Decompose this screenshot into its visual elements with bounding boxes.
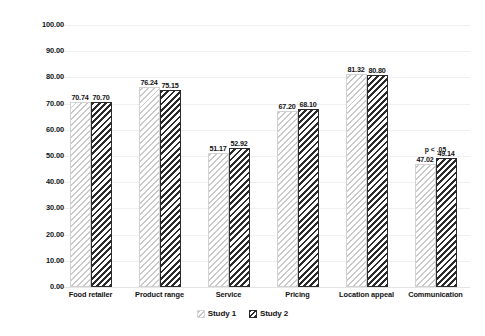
bar-study-1[interactable]: 70.74	[70, 102, 91, 287]
bar-pair: 76.2475.15	[125, 25, 194, 287]
bar-value-label: 52.92	[230, 140, 247, 148]
bar-study-2[interactable]: 49.14	[436, 158, 457, 287]
bar-study-2[interactable]: 68.10	[298, 109, 319, 287]
chart-legend: Study 1Study 2	[0, 309, 485, 318]
y-axis-tick-label: 80.00	[4, 73, 64, 81]
bar-value-label: 51.17	[209, 145, 226, 153]
dark-hatch-swatch	[249, 310, 257, 318]
bar-study-1[interactable]: 67.20	[277, 111, 298, 287]
y-axis-tick-label: 60.00	[4, 126, 64, 134]
bar-group: 67.2068.10	[263, 25, 332, 287]
legend-item-study-1[interactable]: Study 1	[197, 309, 236, 318]
light-hatch-swatch	[197, 310, 205, 318]
bar-pair: 51.1752.92	[194, 25, 263, 287]
x-axis: Food retailerProduct rangeServicePricing…	[56, 290, 470, 304]
x-axis-tick-label: Service	[194, 290, 263, 300]
x-axis-tick-label: Product range	[125, 290, 194, 300]
bar-value-label: 68.10	[299, 101, 316, 109]
y-axis-tick-label: 90.00	[4, 47, 64, 55]
bar-group: 70.7470.70	[56, 25, 125, 287]
bar-study-1[interactable]: 81.32	[346, 74, 367, 287]
bar-study-2[interactable]: 52.92	[229, 148, 250, 287]
legend-label: Study 2	[260, 309, 288, 318]
bar-value-label: 47.02	[416, 156, 433, 164]
bar-value-label: 75.15	[161, 82, 178, 90]
y-axis-tick-label: 30.00	[4, 204, 64, 212]
x-axis-tick-label: Location appeal	[332, 290, 401, 300]
legend-label: Study 1	[208, 309, 236, 318]
plot-area: 70.7470.7076.2475.1551.1752.9267.2068.10…	[56, 25, 470, 287]
bar-value-label: 76.24	[140, 79, 157, 87]
bar-value-label: 80.80	[368, 67, 385, 75]
y-axis-tick-label: 100.00	[4, 21, 64, 29]
bar-value-label: 70.70	[92, 94, 109, 102]
y-axis-tick-label: 50.00	[4, 152, 64, 160]
bar-value-label: 67.20	[278, 103, 295, 111]
y-axis-tick-label: 20.00	[4, 231, 64, 239]
gridline	[56, 287, 470, 288]
bar-group: 76.2475.15	[125, 25, 194, 287]
bar-group: 51.1752.92	[194, 25, 263, 287]
bar-study-1[interactable]: 51.17	[208, 153, 229, 287]
bar-study-2[interactable]: 80.80	[367, 75, 388, 287]
y-axis-tick-label: 0.00	[4, 283, 64, 291]
bar-pair: 47.0249.14	[401, 25, 470, 287]
x-axis-tick-label: Pricing	[263, 290, 332, 300]
bar-group: 47.0249.14p < .05	[401, 25, 470, 287]
y-axis-tick-label: 40.00	[4, 178, 64, 186]
bar-study-1[interactable]: 47.02	[415, 164, 436, 287]
bar-pair: 70.7470.70	[56, 25, 125, 287]
bar-value-label: 70.74	[71, 94, 88, 102]
x-axis-tick-label: Food retailer	[56, 290, 125, 300]
bar-chart: 0.0010.0020.0030.0040.0050.0060.0070.008…	[0, 0, 485, 336]
bar-group: 81.3280.80	[332, 25, 401, 287]
y-axis-tick-label: 70.00	[4, 100, 64, 108]
bar-value-label: 81.32	[347, 66, 364, 74]
bar-pair: 67.2068.10	[263, 25, 332, 287]
x-axis-tick-label: Communication	[401, 290, 470, 300]
legend-item-study-2[interactable]: Study 2	[249, 309, 288, 318]
bar-study-2[interactable]: 70.70	[91, 102, 112, 287]
bar-pair: 81.3280.80	[332, 25, 401, 287]
significance-annotation: p < .05	[425, 146, 446, 154]
bar-study-1[interactable]: 76.24	[139, 87, 160, 287]
bar-study-2[interactable]: 75.15	[160, 90, 181, 287]
y-axis-tick-label: 10.00	[4, 257, 64, 265]
